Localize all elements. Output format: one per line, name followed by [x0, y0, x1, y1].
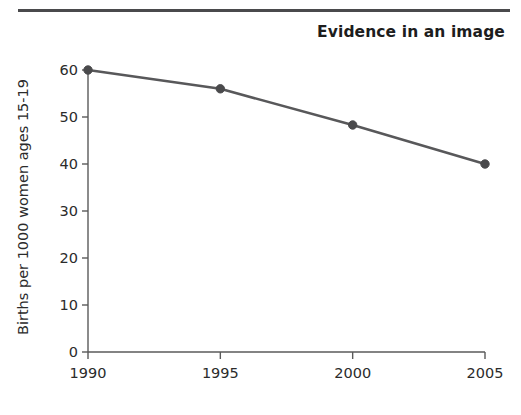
x-tick-label-1995: 1995 [190, 365, 250, 381]
figure-container: Evidence in an image Births per 1000 wom… [0, 0, 521, 415]
y-tick-label-10: 10 [44, 297, 78, 313]
x-tick-label-2000: 2000 [323, 365, 383, 381]
y-tick-label-50: 50 [44, 109, 78, 125]
y-tick-label-30: 30 [44, 203, 78, 219]
y-tick-label-40: 40 [44, 156, 78, 172]
y-tick-label-60: 60 [44, 62, 78, 78]
x-tick-label-2005: 2005 [455, 365, 515, 381]
data-point-1995[interactable] [216, 85, 224, 93]
x-tick-label-1990: 1990 [58, 365, 118, 381]
data-point-2005[interactable] [481, 160, 489, 168]
axes-group [82, 70, 485, 359]
y-tick-label-0: 0 [44, 344, 78, 360]
data-line [88, 70, 485, 164]
data-point-1990[interactable] [84, 66, 92, 74]
data-point-2000[interactable] [348, 121, 356, 129]
plot-area [0, 0, 521, 415]
data-series-group [84, 66, 489, 168]
y-tick-label-20: 20 [44, 250, 78, 266]
